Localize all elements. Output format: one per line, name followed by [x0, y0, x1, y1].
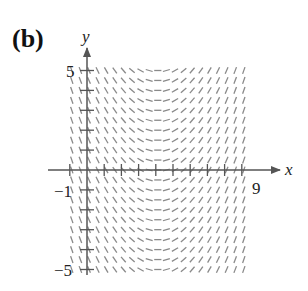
slope-segment: [208, 207, 212, 213]
slope-segment: [172, 178, 178, 182]
slope-segment: [96, 266, 99, 272]
slope-segment: [121, 157, 126, 162]
slope-segment: [243, 117, 245, 124]
slope-segment: [137, 109, 143, 113]
slope-segment: [172, 238, 178, 242]
slope-segment: [121, 88, 126, 93]
slope-segment: [129, 207, 134, 212]
slope-segment: [234, 236, 237, 243]
slope-segment: [129, 98, 134, 103]
slope-segment: [146, 189, 153, 191]
slope-segment: [181, 217, 186, 222]
slope-segment: [216, 187, 219, 193]
slope-segment: [121, 98, 126, 103]
slope-segment: [208, 217, 212, 223]
slope-segment: [190, 147, 195, 152]
slope-segment: [234, 67, 237, 74]
slope-segment: [146, 229, 153, 231]
slope-segment: [96, 87, 99, 93]
slope-segment: [234, 87, 237, 94]
slope-segment: [79, 117, 82, 124]
slope-segment: [225, 266, 228, 273]
slope-segment: [163, 139, 170, 141]
slope-segment: [208, 107, 212, 113]
slope-segment: [172, 248, 178, 252]
slope-segment: [190, 247, 195, 252]
slope-segment: [163, 179, 170, 181]
slope-segment: [146, 219, 153, 221]
slope-segment: [137, 69, 143, 73]
slope-segment: [113, 107, 117, 113]
slope-segment: [181, 178, 186, 183]
slope-segment: [146, 70, 153, 72]
slope-segment: [71, 117, 73, 124]
slope-segment: [208, 266, 212, 272]
slope-segment: [243, 266, 245, 273]
slope-segment: [104, 256, 108, 262]
slope-segment: [181, 108, 186, 113]
slope-segment: [121, 78, 126, 83]
slope-segment: [146, 209, 153, 211]
slope-segment: [163, 99, 170, 101]
slope-segment: [96, 207, 99, 213]
slope-segment: [243, 67, 245, 74]
slope-segment: [79, 97, 82, 104]
slope-segment: [208, 157, 212, 163]
slope-segment: [172, 69, 178, 73]
slope-segment: [234, 216, 237, 223]
slope-segment: [137, 268, 143, 272]
slope-segment: [234, 206, 237, 213]
slope-segment: [243, 127, 245, 134]
slope-segment: [225, 147, 228, 154]
slope-segment: [129, 158, 134, 163]
slope-segment: [96, 137, 99, 143]
slope-segment: [137, 188, 143, 192]
slope-segment: [129, 118, 134, 123]
slope-segment: [129, 237, 134, 242]
slope-segment: [113, 227, 117, 233]
y-tick-label-min: −5: [54, 261, 72, 280]
slope-segment: [71, 216, 73, 223]
slope-segment: [121, 217, 126, 222]
slope-segment: [71, 107, 73, 114]
slope-segment: [146, 139, 153, 141]
slope-segment: [190, 267, 195, 272]
slope-segment: [172, 218, 178, 222]
slope-segment: [243, 246, 245, 253]
slope-segment: [181, 267, 186, 272]
slope-segment: [88, 117, 91, 124]
slope-segment: [96, 256, 99, 262]
slope-segment: [146, 89, 153, 91]
slope-segment: [172, 118, 178, 122]
x-axis-label: x: [284, 160, 293, 179]
slope-segment: [113, 217, 117, 223]
slope-segment: [163, 149, 170, 151]
slope-segment: [234, 177, 237, 184]
slope-segment: [181, 88, 186, 93]
slope-segment: [190, 207, 195, 212]
slope-segment: [190, 257, 195, 262]
slope-segment: [146, 199, 153, 201]
slope-segment: [208, 246, 212, 252]
slope-segment: [172, 89, 178, 93]
slope-segment: [96, 77, 99, 83]
slope-segment: [190, 177, 195, 182]
slope-segment: [225, 246, 228, 253]
slope-segment: [208, 87, 212, 93]
slope-segment: [172, 198, 178, 202]
slope-segment: [96, 177, 99, 183]
slope-segment: [137, 238, 143, 242]
slope-segment: [104, 147, 108, 153]
slope-segment: [216, 127, 219, 133]
slope-segment: [163, 219, 170, 221]
slope-segment: [137, 99, 143, 103]
slope-segment: [96, 117, 99, 123]
slope-segment: [225, 226, 228, 233]
slope-segment: [243, 137, 245, 144]
slope-segment: [146, 129, 153, 131]
slope-segment: [190, 98, 195, 103]
slope-segment: [113, 267, 117, 273]
slope-segment: [208, 187, 212, 193]
slope-segment: [146, 269, 153, 271]
slope-segment: [104, 237, 108, 243]
